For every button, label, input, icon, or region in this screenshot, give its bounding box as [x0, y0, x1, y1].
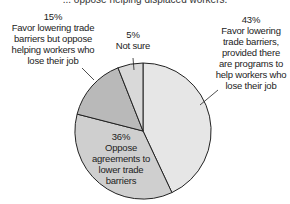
label-line: Favor lowering	[213, 25, 289, 36]
pct-43: 43%	[213, 14, 289, 25]
pct-5: 5%	[108, 29, 158, 40]
label-line: trade barriers,	[213, 36, 289, 47]
label-oppose: 36% Oppose agreements to lower trade bar…	[86, 131, 156, 186]
pct-15: 15%	[8, 11, 98, 22]
pct-36: 36%	[86, 131, 156, 142]
label-line: help workers who	[213, 69, 289, 80]
label-line: lose their job	[8, 55, 98, 66]
label-line: are programs to	[213, 58, 289, 69]
label-line: Favor lowering trade	[8, 22, 98, 33]
label-line: helping workers who	[8, 44, 98, 55]
label-line: barriers	[86, 175, 156, 186]
label-line: Oppose	[86, 142, 156, 153]
label-favor-with-programs: 43% Favor lowering trade barriers, provi…	[213, 14, 289, 91]
label-not-sure: 5% Not sure	[108, 29, 158, 51]
label-line: Not sure	[108, 40, 158, 51]
label-line: provided there	[213, 47, 289, 58]
label-line: lose their job	[213, 80, 289, 91]
label-line: barriers but oppose	[8, 33, 98, 44]
label-favor-no-help: 15% Favor lowering trade barriers but op…	[8, 11, 98, 66]
label-line: lower trade	[86, 164, 156, 175]
leader-line-15	[82, 68, 94, 80]
label-line: agreements to	[86, 153, 156, 164]
